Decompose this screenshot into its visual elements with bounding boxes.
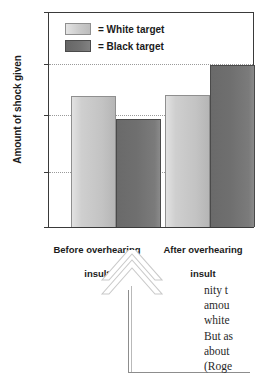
- body-text-line: white: [204, 313, 264, 328]
- legend-item-white-target: = White target: [65, 23, 164, 35]
- bar-after-white-target: [165, 95, 210, 227]
- light-gray-swatch-icon: [65, 23, 91, 35]
- body-text-line: nity t: [204, 283, 264, 298]
- bar-before-white-target: [71, 96, 116, 227]
- bar-chart-figure: Amount of shock given 200 150 100 20 0 =…: [0, 0, 264, 264]
- ytick-mark-0: [44, 227, 49, 228]
- plot-area: 200 150 100 20 0 = White target = Black …: [48, 12, 254, 228]
- ytick-mark-200: [44, 12, 49, 13]
- body-text-line: amou: [204, 298, 264, 313]
- xcat-after-line2: insult: [153, 268, 253, 280]
- legend-item-black-target: = Black target: [65, 40, 164, 52]
- bar-after-black-target: [210, 65, 255, 227]
- ytick-mark-20: [44, 172, 49, 173]
- body-text-column: nity t amou white But as about (Roge: [204, 283, 264, 374]
- bar-before-black-target: [116, 119, 161, 227]
- dark-gray-swatch-icon: [65, 40, 91, 52]
- legend-label-white-target: = White target: [98, 24, 164, 35]
- ytick-mark-100: [44, 115, 49, 116]
- legend-label-black-target: = Black target: [98, 41, 164, 52]
- body-text-line: (Roge: [204, 359, 264, 374]
- chevron-stem: [131, 286, 132, 372]
- double-chevron-up-icon: [98, 250, 166, 296]
- body-text-line: But as: [204, 329, 264, 344]
- column-rule-vertical: [128, 290, 129, 373]
- body-text-line: about: [204, 344, 264, 359]
- y-axis-title: Amount of shock given: [12, 35, 23, 185]
- ytick-mark-150: [44, 64, 49, 65]
- legend: = White target = Black target: [65, 23, 164, 57]
- xcat-after-line1: After overhearing: [153, 244, 253, 256]
